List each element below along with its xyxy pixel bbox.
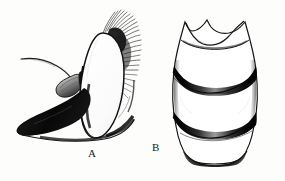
illustration-plate: A B (0, 0, 285, 181)
figure-label-a: A (88, 147, 96, 159)
figure-label-b: B (152, 141, 160, 153)
figure-b-abdomen-dorsal (173, 20, 258, 167)
plate-canvas (0, 0, 285, 181)
